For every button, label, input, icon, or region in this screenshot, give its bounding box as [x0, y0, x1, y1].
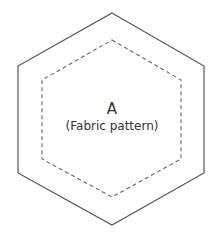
piece-description-label: (Fabric pattern) — [0, 119, 224, 134]
hexagon-template-diagram: A (Fabric pattern) — [0, 0, 224, 239]
piece-letter-label: A — [0, 101, 224, 117]
